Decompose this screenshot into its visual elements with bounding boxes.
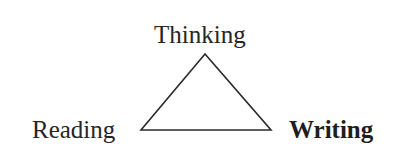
triangle-outline <box>141 54 271 130</box>
node-label-writing: Writing <box>289 117 373 142</box>
node-label-reading: Reading <box>32 117 115 142</box>
